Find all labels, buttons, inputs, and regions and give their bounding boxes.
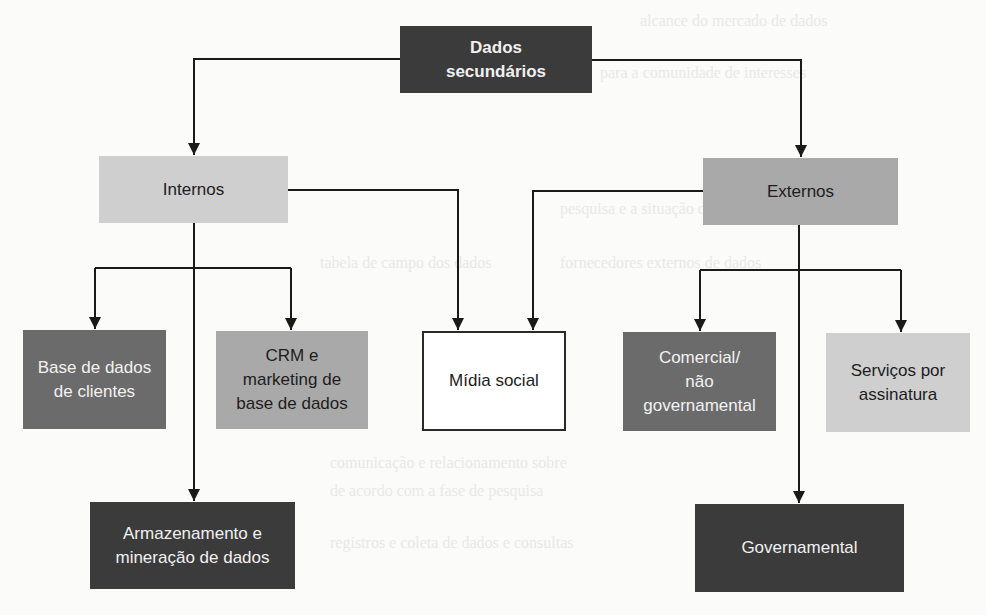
node-label: Armazenamento e mineração de dados [115, 522, 269, 570]
node-label: Internos [163, 178, 224, 202]
node-label: Externos [767, 180, 834, 204]
edge-root-externos [592, 60, 801, 157]
node-label: Dados secundários [446, 36, 546, 84]
edge-root-internos [194, 59, 400, 155]
node-midia-social: Mídia social [422, 331, 566, 431]
node-governamental: Governamental [695, 504, 904, 592]
edge-externos-midia [533, 191, 703, 330]
node-dados-secundarios: Dados secundários [400, 26, 592, 93]
node-armazenamento-mineracao: Armazenamento e mineração de dados [90, 502, 295, 589]
node-comercial-nao-governamental: Comercial/ não governamental [623, 332, 776, 431]
node-crm-marketing: CRM e marketing de base de dados [216, 331, 368, 429]
node-internos: Internos [99, 156, 288, 223]
node-label: Base de dados de clientes [38, 356, 151, 404]
node-label: Governamental [741, 536, 857, 560]
node-base-de-dados-de-clientes: Base de dados de clientes [23, 330, 166, 429]
node-label: Comercial/ não governamental [643, 346, 755, 418]
node-externos: Externos [703, 158, 898, 225]
edge-internos-midia [288, 190, 458, 330]
node-label: CRM e marketing de base de dados [236, 344, 348, 416]
node-servicos-por-assinatura: Serviços por assinatura [826, 333, 970, 432]
node-label: Serviços por assinatura [851, 359, 945, 407]
node-label: Mídia social [449, 369, 539, 393]
